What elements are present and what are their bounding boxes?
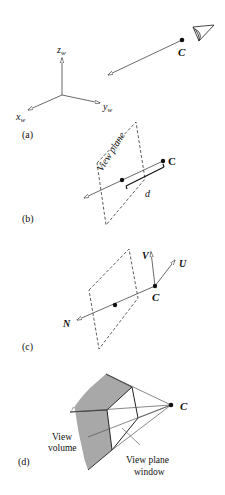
view-plane-window-label: View plane bbox=[126, 455, 169, 465]
camera-point bbox=[169, 403, 174, 408]
panel-c-label: (c) bbox=[22, 341, 33, 353]
v-axis bbox=[151, 252, 155, 286]
camera-point bbox=[153, 284, 157, 288]
axis-y-label: yw bbox=[102, 101, 112, 114]
panel-d-label: (d) bbox=[18, 456, 30, 468]
view-direction-arrow bbox=[108, 40, 182, 75]
view-plane-window-label-2: window bbox=[134, 467, 165, 477]
u-label: U bbox=[179, 258, 187, 269]
world-axes bbox=[28, 58, 100, 110]
camera-label: C bbox=[178, 46, 186, 58]
camera-point bbox=[180, 38, 185, 43]
camera-point bbox=[161, 159, 165, 163]
n-axis bbox=[77, 286, 155, 320]
distance-bracket bbox=[126, 164, 164, 189]
panel-a-label: (a) bbox=[22, 129, 33, 141]
axis-z-label: zw bbox=[56, 44, 66, 57]
panel-b-label: (b) bbox=[22, 213, 34, 225]
panel-a: zw xw yw C (a) bbox=[15, 25, 214, 141]
n-label: N bbox=[62, 318, 71, 329]
view-volume-label-2: volume bbox=[48, 443, 77, 453]
view-plane bbox=[89, 249, 138, 349]
panel-b: View plane C d (b) bbox=[22, 122, 176, 225]
panel-c: V U N C (c) bbox=[22, 249, 187, 353]
camera-label: C bbox=[180, 400, 188, 412]
camera-label: C bbox=[168, 155, 176, 167]
v-label: V bbox=[142, 250, 150, 261]
distance-label: d bbox=[145, 188, 151, 199]
eye-icon bbox=[193, 25, 214, 41]
view-plane-label: View plane bbox=[94, 129, 127, 173]
view-volume-label: View bbox=[52, 432, 72, 442]
panel-d: C View volume View plane window (d) bbox=[18, 374, 188, 477]
viewing-pipeline-diagram: zw xw yw C (a) View plane C d (b) V bbox=[0, 0, 225, 495]
axis-x-label: xw bbox=[15, 111, 25, 124]
u-axis bbox=[155, 260, 175, 286]
x-axis bbox=[28, 95, 62, 110]
view-plane-center bbox=[120, 178, 124, 182]
y-axis bbox=[62, 95, 100, 103]
camera-label: C bbox=[152, 291, 160, 303]
view-plane-center bbox=[113, 303, 117, 307]
